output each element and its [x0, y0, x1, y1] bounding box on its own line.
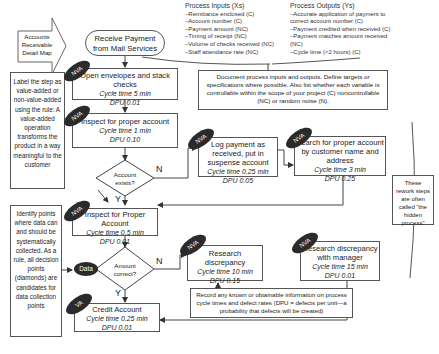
step-title: Log payment as received, put in suspense…	[199, 140, 277, 167]
decision-no-label: N	[156, 256, 163, 266]
output-item: –Accurate application of payment to corr…	[290, 11, 400, 26]
input-item: –Account number (C)	[185, 18, 285, 26]
step-dpu: DPU 0.10	[73, 135, 177, 144]
step-credit-account: Credit Account Cycle time 0.25 min DPU 0…	[74, 303, 160, 332]
step-log-payment: Log payment as received, put in suspense…	[198, 137, 278, 177]
input-item: –Timing of receipt (NC)	[185, 33, 285, 41]
step-research-with-manager: Research discrepancy with manager Cycle …	[300, 241, 380, 281]
identify-data-note: Identify points where data can and shoul…	[10, 205, 62, 337]
step-title: Open envelopes and stack checks	[73, 71, 177, 89]
step-title: Search for proper account by customer na…	[295, 138, 385, 165]
label-step-note: Label the step as value-added or non-val…	[10, 72, 65, 189]
step-research-discrepancy: Research discrepancy Cycle time 10 min D…	[187, 245, 263, 281]
process-inputs: Process Inputs (Xs) –Remittance enclosed…	[185, 2, 285, 56]
step-cycle-time: Cycle time 5 min	[73, 89, 177, 98]
input-item: –Volume of checks received (NC)	[185, 41, 285, 49]
process-outputs-title: Process Outputs (Ys)	[290, 2, 400, 10]
step-dpu: DPU 0.25	[295, 174, 385, 183]
output-item: –Payment matches amount received (NC)	[290, 33, 400, 48]
decision-yes-label: Y	[115, 194, 121, 204]
input-item: –Remittance enclosed (C)	[185, 11, 285, 19]
output-item: –Cycle time (<2 hours) (C)	[290, 49, 400, 57]
step-open-envelopes: Open envelopes and stack checks Cycle ti…	[72, 68, 178, 100]
record-note: Record any known or obtainable informati…	[190, 288, 353, 318]
step-cycle-time: Cycle time 1 min	[73, 126, 177, 135]
step-title: Credit Account	[75, 305, 159, 314]
step-dpu: DPU 0.15	[188, 276, 262, 285]
decision-no-label: N	[156, 164, 163, 174]
step-title: Inspect for proper account	[73, 117, 177, 126]
step-cycle-time: Cycle time 15 min	[301, 262, 379, 271]
process-inputs-title: Process Inputs (Xs)	[185, 2, 285, 10]
step-title: Research discrepancy with manager	[301, 244, 379, 262]
decision-amount-correct: Amount correct?	[105, 262, 145, 277]
step-dpu: DPU 0.01	[75, 323, 159, 332]
step-inspect-account: Inspect for proper account Cycle time 1 …	[72, 113, 178, 148]
process-outputs: Process Outputs (Ys) –Accurate applicati…	[290, 2, 400, 56]
step-cycle-time: Cycle time 0.5 min	[73, 228, 157, 237]
step-cycle-time: Cycle time 3 min	[295, 165, 385, 174]
step-search-account: Search for proper account by customer na…	[294, 136, 386, 176]
step-dpu: DPU 0.01	[301, 271, 379, 280]
step-dpu: DPU 0.01	[73, 237, 157, 246]
detail-map-label: Accounts Receivable Detail Map	[20, 33, 54, 57]
decision-yes-label: Y	[115, 288, 121, 298]
step-cycle-time: Cycle time 0.25 min	[75, 314, 159, 323]
step-cycle-time: Cycle time 0.25 min	[199, 167, 277, 176]
hidden-process-note: These rework steps are often called "the…	[392, 175, 434, 225]
input-item: –Staff attendance rate (NC)	[185, 49, 285, 57]
input-item: –Payment amount (NC)	[185, 26, 285, 34]
decision-account-exists: Account exists?	[105, 171, 145, 186]
document-note: Document process inputs and outputs. Def…	[198, 70, 388, 110]
step-dpu: DPU 0.05	[199, 176, 277, 185]
step-cycle-time: Cycle time 10 min	[188, 267, 262, 276]
data-tag: Data	[74, 262, 98, 276]
output-item: –Payment credited when received (C)	[290, 26, 400, 34]
start-terminal: Receive Payment from Mail Services	[85, 30, 165, 56]
step-title: Research discrepancy	[188, 249, 262, 267]
